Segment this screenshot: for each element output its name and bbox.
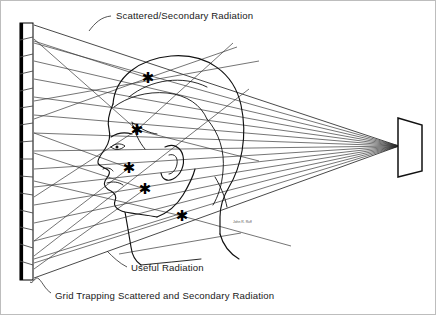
scattered-radiation-rays — [34, 39, 291, 269]
scatter-ray — [34, 89, 249, 256]
label-useful-radiation: Useful Radiation — [131, 262, 204, 273]
primary-ray — [34, 146, 399, 205]
primary-ray — [34, 146, 399, 241]
diagram-canvas: John R. Ruff ✱ ✱ ✱ ✱ ✱ — [1, 1, 436, 315]
scatter-ray — [34, 78, 148, 119]
primary-ray — [34, 79, 399, 146]
scatter-source-marker: ✱ — [123, 159, 136, 177]
scatter-source-marker: ✱ — [176, 207, 189, 225]
neck-back — [220, 234, 239, 259]
neck-front — [125, 212, 141, 265]
useful-radiation-beam — [34, 25, 399, 278]
label-grid-trapping: Grid Trapping Scattered and Secondary Ra… — [55, 290, 274, 301]
scatter-ray — [119, 233, 241, 254]
ear-outline — [161, 145, 184, 180]
pupil — [116, 146, 119, 149]
tube-housing — [398, 118, 422, 177]
scatter-source-marker: ✱ — [131, 121, 144, 139]
leader-scattered — [89, 16, 111, 31]
anti-scatter-grid — [20, 23, 33, 280]
scatter-source-marker: ✱ — [142, 69, 155, 87]
primary-ray — [34, 146, 399, 187]
scatter-ray — [34, 216, 182, 263]
primary-ray — [34, 133, 399, 146]
primary-ray — [34, 25, 399, 146]
primary-ray — [34, 97, 399, 146]
artist-signature: John R. Ruff — [233, 220, 252, 224]
leader-lines — [30, 16, 127, 293]
scatter-source-marker: ✱ — [139, 180, 152, 198]
label-scattered-radiation: Scattered/Secondary Radiation — [116, 10, 253, 21]
radiographic-grid-diagram: John R. Ruff ✱ ✱ ✱ ✱ ✱ — [0, 0, 436, 315]
x-ray-tube-focal-spot — [398, 118, 422, 177]
primary-ray — [34, 146, 399, 259]
scatter-ray — [34, 41, 148, 78]
